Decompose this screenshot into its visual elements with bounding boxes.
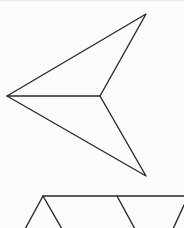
geometry-diagram — [0, 1, 184, 228]
strip-edge-2 — [43, 196, 62, 228]
diagram-canvas — [0, 0, 184, 228]
strip-edge-4 — [173, 205, 184, 228]
arrowhead-outline — [7, 14, 146, 176]
triangle-strip-figure — [25, 196, 184, 228]
strip-edge-3 — [117, 196, 135, 228]
arrowhead-figure — [7, 14, 146, 176]
strip-edge-1 — [25, 196, 43, 228]
